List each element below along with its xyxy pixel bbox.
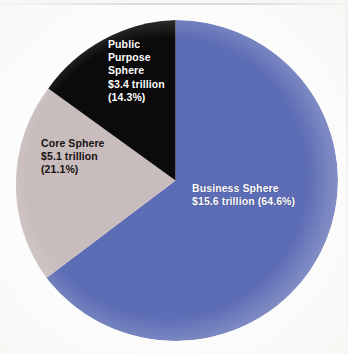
slice-label-line: Business Sphere (192, 182, 295, 195)
pie-chart-plot-area (13, 20, 338, 341)
slice-label-line: Core Sphere (41, 137, 105, 150)
slice-label-value: $3.4 trillion (108, 78, 165, 91)
slice-label-public-purpose-sphere: Public Purpose Sphere $3.4 trillion (14.… (108, 38, 165, 104)
pie-graphic (13, 20, 338, 341)
slice-label-percent: (14.3%) (108, 91, 165, 104)
slice-label-value: $5.1 trillion (41, 150, 105, 163)
slice-label-core-sphere: Core Sphere $5.1 trillion (21.1%) (41, 137, 105, 177)
slice-label-percent: (21.1%) (41, 163, 105, 176)
slice-label-line: Purpose (108, 51, 165, 64)
slice-label-business-sphere: Business Sphere $15.6 trillion (64.6%) (192, 182, 295, 208)
pie-chart-figure: Public Purpose Sphere $3.4 trillion (14.… (0, 0, 348, 354)
slice-label-line: Public (108, 38, 165, 51)
scan-edge-top (0, 3, 348, 5)
slice-label-value: $15.6 trillion (64.6%) (192, 195, 295, 208)
slice-label-line: Sphere (108, 64, 165, 77)
